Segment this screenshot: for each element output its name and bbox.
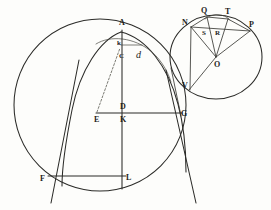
point-label-G: G [181, 110, 187, 118]
point-label-P: P [249, 21, 254, 29]
inset-radius-OT [216, 19, 228, 57]
point-label-T: T [225, 8, 230, 16]
inner-ellipse-arc [62, 32, 121, 186]
point-label-L: L [126, 174, 131, 182]
point-label-k: k [117, 40, 121, 47]
point-label-N: N [182, 19, 188, 27]
dotted-line-E-to-k [97, 48, 120, 112]
point-label-S: S [202, 30, 206, 37]
point-label-C: C [119, 53, 124, 60]
secondary-line-through-G [171, 68, 181, 116]
point-label-Q: Q [201, 7, 207, 15]
geometry-figure: A k C d D E K G F L N Q T P S R O V [0, 0, 271, 210]
point-label-D: D [120, 103, 126, 111]
main-circle [14, 19, 186, 191]
inset-chord-NQ [191, 17, 207, 27]
point-label-E: E [94, 116, 99, 124]
inset-chord-NP [191, 27, 250, 31]
inset-radius-OP [216, 31, 250, 57]
inset-chord-NV [190, 27, 191, 90]
point-label-V: V [182, 82, 188, 90]
tangent-line-through-G [166, 70, 196, 203]
inset-radius-OV [189, 57, 216, 90]
point-label-K: K [120, 116, 126, 124]
point-label-R: R [215, 30, 220, 37]
point-label-F: F [40, 175, 45, 183]
point-label-d-script: d [136, 50, 141, 60]
point-label-A: A [119, 19, 125, 27]
inset-chord-QT [207, 17, 228, 19]
oblique-line-left [51, 60, 79, 203]
point-label-O: O [214, 61, 220, 69]
